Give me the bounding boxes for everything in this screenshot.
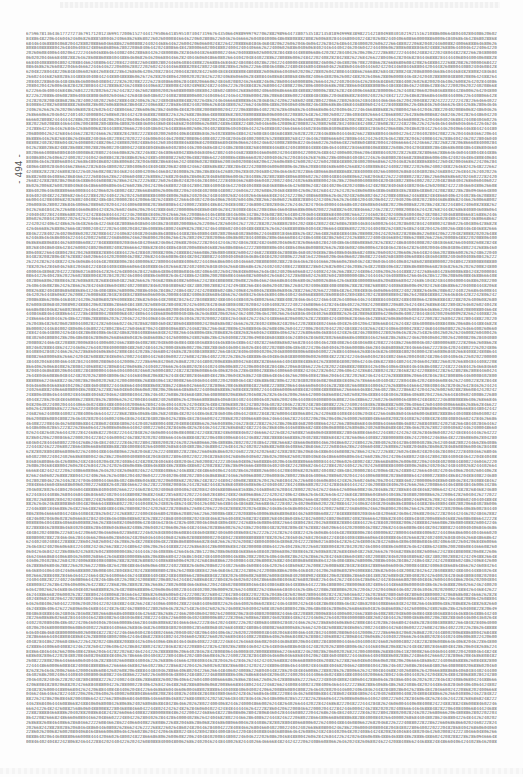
digit-line: 0084640240482242806824644228842024404226… — [26, 740, 501, 745]
digit-text-block: 6759678136436177272736791712012369917200… — [26, 32, 501, 745]
page-number: - 494 - — [13, 152, 25, 186]
bleed-through-text-bottom — [0, 768, 523, 774]
bleed-through-text-top — [60, 2, 500, 8]
document-page: - 494 - 67596781364361772727367917120123… — [0, 0, 523, 777]
